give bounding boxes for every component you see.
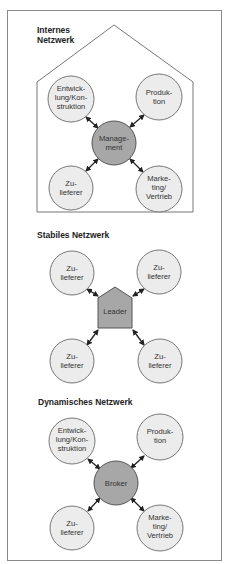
node-zulieferer: Zu-lieferer xyxy=(49,166,93,210)
node-entwicklung: Entwick-lung/Kon-struktion xyxy=(48,76,94,122)
svg-text:Leader: Leader xyxy=(103,307,127,316)
node-zulieferer-3: Zu-lieferer xyxy=(50,339,94,383)
node-produktion: Produk-tion xyxy=(137,414,183,460)
node-produktion: Produk-tion xyxy=(136,74,182,120)
internal-network-section: Internes Netzwerk Entwick-lung/Kon-struk… xyxy=(37,25,193,212)
node-marketing: Marke-ting/Vertrieb xyxy=(136,166,182,212)
stable-network-section: Stabiles Netzwerk Zu-lieferer Zu-liefere… xyxy=(37,230,182,383)
hub-broker: Broker xyxy=(94,461,138,505)
dynamic-network-section: Dynamisches Netzwerk Entwick-lung/Kon-st… xyxy=(38,397,183,551)
node-zulieferer-4: Zu-lieferer xyxy=(138,339,182,383)
node-zulieferer: Zu-lieferer xyxy=(50,506,94,550)
hub-management: Manage-ment xyxy=(92,121,136,165)
internal-network-title: Internes Netzwerk xyxy=(37,25,75,45)
node-zulieferer-1: Zu-lieferer xyxy=(50,251,94,295)
node-entwicklung: Entwick-lung/Kon-struktion xyxy=(49,418,95,464)
node-zulieferer-2: Zu-lieferer xyxy=(137,250,181,294)
svg-text:Entwick-lung/Kon-struktion: Entwick-lung/Kon-struktion xyxy=(55,84,88,111)
svg-text:Entwick-lung/Kon-struktion: Entwick-lung/Kon-struktion xyxy=(56,426,89,453)
node-marketing: Marke-ting/Vertrieb xyxy=(137,505,183,551)
network-diagram: Internes Netzwerk Entwick-lung/Kon-struk… xyxy=(0,0,229,564)
stable-network-title: Stabiles Netzwerk xyxy=(37,230,110,240)
svg-text:Broker: Broker xyxy=(105,479,128,488)
dynamic-network-title: Dynamisches Netzwerk xyxy=(38,397,133,407)
hub-leader: Leader xyxy=(98,287,132,328)
